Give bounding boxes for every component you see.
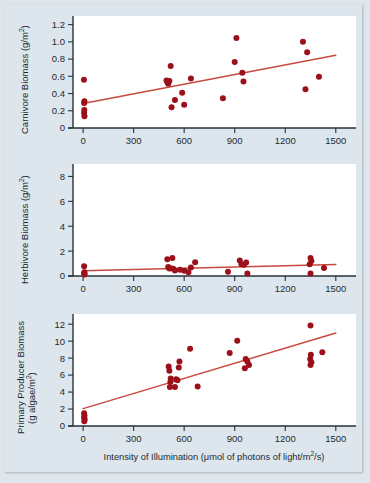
xlabel-pre: Intensity of Illumination (μmol of photo…: [104, 452, 311, 462]
primary-producer-data-point: [246, 362, 252, 368]
herbivore-data-point: [82, 272, 88, 278]
carnivore-data-point: [181, 102, 187, 108]
primary-producer-data-point: [172, 384, 178, 390]
carnivore-xtick-label: 1200: [275, 135, 296, 146]
primary-producer-ytick-labels: 024681012: [54, 319, 65, 432]
herbivore-data-point: [321, 265, 327, 271]
herbivore-data-point: [172, 267, 178, 273]
carnivore-ytick-label: 0.6: [52, 71, 65, 82]
carnivore-data-point: [304, 49, 310, 55]
carnivore-ytick-labels: 00.20.40.60.81.01.2: [52, 19, 65, 133]
herbivore-data-point: [81, 263, 87, 269]
panel-herbivore: Herbivore Biomass (g/m2) 02468 030060090…: [4, 156, 362, 308]
svg-text:(g algae/m2): (g algae/m2): [25, 372, 37, 424]
carnivore-data-point: [81, 113, 87, 119]
herbivore-data-point: [243, 260, 249, 266]
primary-producer-data-point: [187, 346, 193, 352]
figure-container: Carnivore Biomass (g/m2) 00.20.40.60.81.…: [0, 0, 370, 483]
primary-producer-data-point: [174, 377, 180, 383]
primary-producer-plot: Primary Producer Biomass (g algae/m2) 02…: [4, 308, 362, 472]
primary-producer-data-point: [176, 364, 182, 370]
carnivore-ytick-label: 0.2: [52, 105, 65, 116]
herbivore-data-point: [308, 271, 314, 277]
primary-producer-data-point: [234, 338, 240, 344]
primary-producer-ytick-label: 8: [60, 353, 65, 364]
herbivore-data-point: [244, 271, 250, 277]
herbivore-plot: Herbivore Biomass (g/m2) 02468 030060090…: [4, 156, 362, 308]
carnivore-plot-area: [73, 16, 356, 128]
herbivore-data-point: [307, 261, 313, 267]
carnivore-xtick-label: 300: [126, 135, 142, 146]
primary-producer-xtick-label: 1500: [325, 433, 346, 444]
primary-producer-data-point: [195, 384, 201, 390]
primary-producer-data-point: [167, 379, 173, 385]
svg-text:Herbivore Biomass (g/m2): Herbivore Biomass (g/m2): [18, 175, 30, 284]
svg-text:Intensity of Illumination (μmo: Intensity of Illumination (μmol of photo…: [104, 450, 325, 462]
primary-producer-xtick-label: 1200: [275, 433, 296, 444]
carnivore-ylabel-text: Carnivore Biomass (g/m: [19, 32, 30, 134]
herbivore-xtick-label: 0: [80, 283, 85, 294]
pp-ylabel-line1: Primary Producer Biomass: [15, 321, 26, 434]
primary-producer-data-point: [166, 368, 172, 374]
primary-producer-data-point: [308, 322, 314, 328]
carnivore-data-point: [232, 59, 238, 65]
carnivore-ytick-label: 0.4: [52, 88, 65, 99]
carnivore-ytick-label: 1.0: [52, 36, 65, 47]
primary-producer-xtick-label: 600: [176, 433, 192, 444]
pp-ylabel-line2-post: ): [26, 372, 37, 375]
primary-producer-xtick-label: 300: [126, 433, 142, 444]
carnivore-data-point: [172, 97, 178, 103]
carnivore-xtick-labels: 030060090012001500: [80, 135, 346, 146]
xlabel-post: /s): [314, 452, 324, 462]
carnivore-data-point: [81, 100, 87, 106]
herbivore-data-point: [225, 269, 231, 275]
herbivore-data-point: [188, 265, 194, 271]
herbivore-ytick-label: 4: [60, 221, 65, 232]
carnivore-data-point: [300, 39, 306, 45]
primary-producer-y-axis-title: Primary Producer Biomass (g algae/m2): [15, 321, 37, 434]
panel-primary-producer: Primary Producer Biomass (g algae/m2) 02…: [4, 308, 362, 472]
primary-producer-ytick-label: 12: [54, 319, 65, 330]
carnivore-data-point: [302, 86, 308, 92]
svg-text:Carnivore Biomass (g/m2): Carnivore Biomass (g/m2): [18, 25, 30, 134]
pp-ylabel-line2-pre: (g algae/m: [26, 379, 37, 424]
carnivore-data-point: [220, 95, 226, 101]
herbivore-ytick-label: 6: [60, 196, 65, 207]
herbivore-xtick-label: 900: [227, 283, 243, 294]
carnivore-data-point: [166, 78, 172, 84]
herbivore-xtick-labels: 030060090012001500: [80, 283, 346, 294]
herbivore-ylabel-text: Herbivore Biomass (g/m: [19, 182, 30, 284]
herbivore-xtick-label: 300: [126, 283, 142, 294]
herbivore-xtick-label: 1500: [325, 283, 346, 294]
carnivore-xtick-label: 0: [80, 135, 85, 146]
carnivore-data-point: [233, 35, 239, 41]
carnivore-data-point: [239, 70, 245, 76]
primary-producer-ytick-label: 2: [60, 403, 65, 414]
carnivore-ytick-label: 1.2: [52, 19, 65, 30]
herbivore-ytick-label: 2: [60, 246, 65, 257]
herbivore-ytick-label: 8: [60, 171, 65, 182]
carnivore-xtick-label: 600: [176, 135, 192, 146]
primary-producer-xtick-labels: 030060090012001500: [80, 433, 346, 444]
carnivore-data-point: [240, 78, 246, 84]
carnivore-data-point: [168, 63, 174, 69]
herbivore-data-point: [192, 259, 198, 265]
primary-producer-data-point: [176, 359, 182, 365]
primary-producer-data-point: [308, 362, 314, 368]
herbivore-ytick-labels: 02468: [60, 171, 65, 282]
carnivore-ytick-label: 0.8: [52, 53, 65, 64]
x-axis-caption: Intensity of Illumination (μmol of photo…: [104, 450, 325, 462]
herbivore-y-axis-title: Herbivore Biomass (g/m2): [18, 175, 30, 284]
figure-card: Carnivore Biomass (g/m2) 00.20.40.60.81.…: [4, 4, 362, 472]
herbivore-data-point: [169, 255, 175, 261]
carnivore-y-axis-title: Carnivore Biomass (g/m2): [18, 25, 30, 134]
carnivore-xtick-label: 900: [227, 135, 243, 146]
carnivore-xtick-label: 1500: [325, 135, 346, 146]
primary-producer-ytick-label: 6: [60, 369, 65, 380]
primary-producer-ytick-label: 0: [60, 420, 65, 431]
herbivore-xtick-label: 1200: [275, 283, 296, 294]
primary-producer-data-point: [227, 350, 233, 356]
primary-producer-xtick-label: 900: [227, 433, 243, 444]
carnivore-data-point: [169, 104, 175, 110]
carnivore-ylabel-post: ): [19, 25, 30, 28]
